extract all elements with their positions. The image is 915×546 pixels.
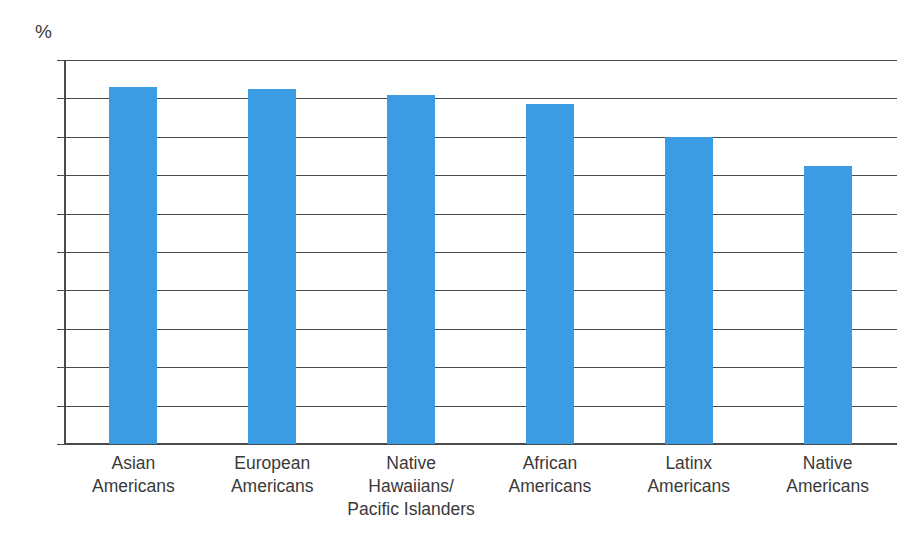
y-axis-tick xyxy=(57,98,65,99)
gridline xyxy=(64,252,897,253)
y-axis-tick xyxy=(57,367,65,368)
gridline xyxy=(64,60,897,61)
y-axis-unit-label: % xyxy=(0,22,52,41)
gridline xyxy=(64,98,897,99)
y-axis-tick xyxy=(57,406,65,407)
y-axis-tick xyxy=(57,444,65,445)
gridline xyxy=(64,367,897,368)
y-axis-tick xyxy=(57,214,65,215)
y-axis-tick xyxy=(57,290,65,291)
bar xyxy=(109,87,157,444)
gridline xyxy=(64,290,897,291)
bar xyxy=(248,89,296,444)
y-axis-tick xyxy=(57,60,65,61)
bar xyxy=(665,137,713,444)
gridline xyxy=(64,214,897,215)
bar xyxy=(387,95,435,444)
x-axis-category-label: Native Americans xyxy=(738,452,915,498)
y-axis-tick xyxy=(57,329,65,330)
bar xyxy=(526,104,574,444)
gridline xyxy=(64,137,897,138)
gridline xyxy=(64,175,897,176)
gridline xyxy=(64,329,897,330)
y-axis-tick xyxy=(57,137,65,138)
bar-chart: % 1009080706050403020100 Asian Americans… xyxy=(0,0,915,546)
bar xyxy=(804,166,852,444)
y-axis-tick xyxy=(57,252,65,253)
plot-area: 1009080706050403020100 xyxy=(64,60,897,444)
gridline xyxy=(64,406,897,407)
y-axis-tick xyxy=(57,175,65,176)
